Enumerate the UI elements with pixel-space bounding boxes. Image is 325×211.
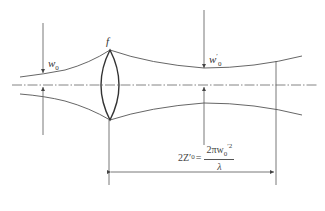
input-waist-label: w0	[48, 58, 59, 72]
input-beam-upper	[20, 50, 110, 77]
confocal-parameter-formula: 2Z′0 = 2πw0′2 λ	[178, 142, 234, 172]
beam-diagram	[0, 0, 325, 211]
output-waist-label: w′0	[209, 53, 221, 68]
input-beam-lower	[20, 94, 110, 120]
lens-label: f	[106, 36, 109, 47]
output-beam-upper	[110, 50, 302, 68]
output-beam-lower	[110, 103, 302, 120]
